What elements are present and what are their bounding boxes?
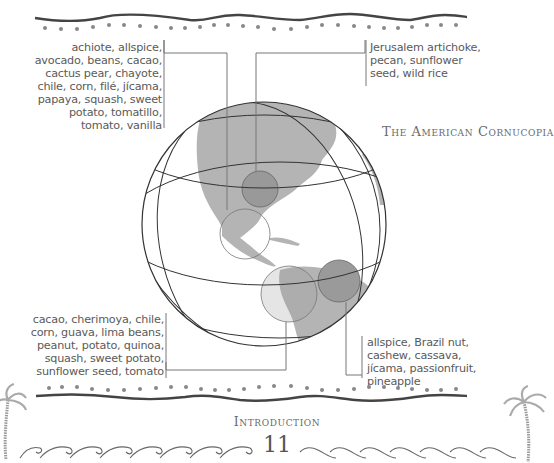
callout-line: corn, guava, lima beans, [0,326,164,339]
callout-line: jícama, passionfruit, [367,362,547,375]
callout-line: squash, sweet potato, [0,352,164,365]
callout-line: cashew, cassava, [367,349,547,362]
region-north-america [242,171,278,207]
callout-mexico: achiote, allspice, avocado, beans, cacao… [0,41,162,132]
callout-line: Jerusalem artichoke, [370,41,550,54]
central-america-landmass [222,226,276,266]
callout-line: peanut, potato, quinoa, [0,339,164,352]
figure-title: The American Cornucopia [382,124,554,139]
callout-line: pecan, sunflower [370,54,550,67]
callout-brazil: allspice, Brazil nut, cashew, cassava, j… [367,336,547,388]
callout-line: chile, corn, filé, jícama, [0,80,162,93]
region-brazil [318,260,360,302]
callout-line: allspice, Brazil nut, [367,336,547,349]
north-america-landmass [197,102,337,240]
callout-andes: cacao, cherimoya, chile, corn, guava, li… [0,313,164,378]
callout-line: seed, wild rice [370,67,550,80]
callout-line: achiote, allspice, [0,41,162,54]
callout-line: cactus pear, chayote, [0,67,162,80]
leader-brazil [346,302,362,375]
page-number: 11 [0,432,554,457]
callout-line: tomato, vanilla [0,119,162,132]
section-label: Introduction [0,414,554,429]
callout-line: potato, tomatillo, [0,106,162,119]
callout-north-america: Jerusalem artichoke, pecan, sunflower se… [370,41,550,80]
region-andes [261,266,317,322]
callout-line: avocado, beans, cacao, [0,54,162,67]
callout-line: pineapple [367,375,547,388]
callout-line: papaya, squash, sweet [0,93,162,106]
callout-line: sunflower seed, tomato [0,365,164,378]
callout-line: cacao, cherimoya, chile, [0,313,164,326]
